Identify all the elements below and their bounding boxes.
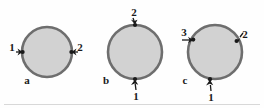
circle-a <box>22 27 72 77</box>
panel-label-c: c <box>183 74 188 86</box>
arrow-label-c-3: 3 <box>181 26 187 38</box>
arrow-label-b-1: 1 <box>133 90 139 102</box>
diagram-svg: 1 2 a 2 <box>0 0 264 108</box>
arrow-label-b-2: 2 <box>131 6 137 18</box>
circle-c <box>188 25 242 79</box>
panel-label-b: b <box>103 74 109 86</box>
arrow-label-a-1: 1 <box>9 41 15 53</box>
arrow-label-c-1: 1 <box>208 91 214 103</box>
figure-container: 1 2 a 2 <box>0 0 264 108</box>
circle-b <box>108 25 162 79</box>
arrow-label-a-2: 2 <box>77 41 83 53</box>
arrow-label-c-2: 2 <box>242 28 248 40</box>
panel-label-a: a <box>24 74 30 86</box>
